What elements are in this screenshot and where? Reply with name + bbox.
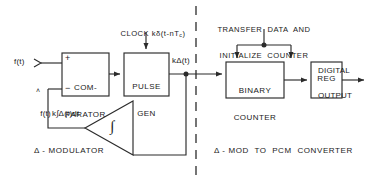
feedback-signal-base: f(t)	[40, 109, 51, 118]
binary-counter-label: BINARY COUNTER	[226, 69, 284, 141]
digital-output-line2: OUTPUT	[318, 92, 352, 100]
pulse-gen-label-line2: GEN	[124, 110, 169, 119]
binary-counter-label-line1: BINARY	[226, 87, 284, 96]
control-signal-line1: TRANSFER DATA AND	[204, 26, 324, 35]
feedback-hat-accent: ˄	[26, 87, 51, 95]
feedback-signal-label: ˄ f(t)	[16, 83, 51, 137]
control-signal-label: TRANSFER DATA AND INITIALIZE COUNTER	[204, 9, 324, 77]
control-signal-line2: INITIALIZE COUNTER	[204, 52, 324, 61]
left-section-caption: Δ - MODULATOR	[34, 147, 104, 156]
pulse-gen-label-line1: PULSE	[124, 83, 169, 92]
binary-counter-label-line2: COUNTER	[226, 114, 284, 123]
block-diagram: COM- PARATOR PULSE GEN ∫ BINARY COUNTER …	[0, 0, 369, 183]
pulse-gen-label: PULSE GEN	[124, 65, 169, 137]
comparator-label: COM- PARATOR	[62, 66, 109, 138]
clock-label-suffix: )	[183, 29, 186, 38]
clock-label: CLOCK kδ(t-nTc)	[110, 21, 186, 47]
clock-label-prefix: CLOCK kδ(t-nT	[120, 29, 179, 38]
integrator-output-label: k∫Δ(t)dt	[52, 110, 79, 119]
integrator-symbol: ∫	[110, 118, 114, 135]
pulse-output-junction-dot	[184, 72, 189, 77]
input-arrowhead	[34, 59, 41, 67]
comparator-plus-sign: +	[65, 53, 70, 63]
comparator-minus-sign: −	[65, 83, 70, 93]
pulse-output-label: kΔ(t)	[172, 57, 190, 66]
input-signal-label: f(t)	[14, 58, 25, 67]
right-section-caption: Δ - MOD TO PCM CONVERTER	[214, 147, 353, 156]
